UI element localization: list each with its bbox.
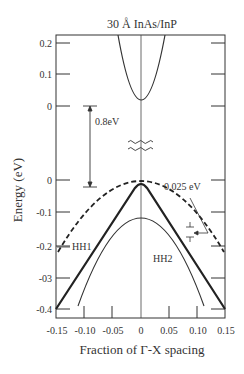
y-tick-label: 0.1 bbox=[40, 69, 53, 80]
conduction-band-curve bbox=[118, 35, 165, 100]
y-tick-label: 0 bbox=[47, 175, 52, 186]
plot-frame bbox=[56, 35, 225, 318]
hh1-label: HH1 bbox=[72, 241, 91, 252]
x-axis-label: Fraction of Γ-X spacing bbox=[80, 342, 205, 357]
x-tick-label: 0 bbox=[139, 325, 144, 336]
x-tick-label: -0.05 bbox=[103, 325, 124, 336]
x-tick-label: -0.15 bbox=[47, 325, 68, 336]
x-tick-label: -0.10 bbox=[75, 325, 96, 336]
hh2-label: HH2 bbox=[153, 253, 172, 264]
band-structure-chart: 30 Å InAs/InP 0.2 0.1 0 0 -0.1 -0.2 -03 … bbox=[0, 0, 244, 374]
x-ticks bbox=[84, 306, 197, 318]
x-tick-label: 0.05 bbox=[160, 325, 178, 336]
x-tick-label: 0.10 bbox=[189, 325, 207, 336]
y-tick-label: -0.1 bbox=[36, 207, 52, 218]
chart-title: 30 Å InAs/InP bbox=[107, 17, 177, 31]
y-tick-label: 0.2 bbox=[40, 38, 53, 49]
offset-label: 0.025 eV bbox=[164, 181, 201, 192]
y-tick-label: -03 bbox=[39, 273, 52, 284]
bandgap-label: 0.8eV bbox=[95, 116, 120, 127]
y-tick-label: -0.4 bbox=[36, 304, 52, 315]
y-tick-label: -0.2 bbox=[36, 241, 52, 252]
axis-break-icon bbox=[128, 141, 153, 151]
y-axis-label: Energy (eV) bbox=[10, 158, 25, 222]
y-tick-label: 0 bbox=[47, 101, 52, 112]
x-tick-label: 0.15 bbox=[217, 325, 235, 336]
